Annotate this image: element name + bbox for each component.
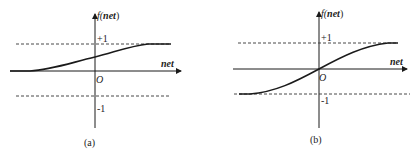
y-axis-label: f(net) [321, 8, 343, 20]
caption: (a) [84, 137, 95, 149]
panel-a: f(net) +1 net O -1 (a) [10, 10, 181, 149]
x-axis-label: net [390, 56, 404, 67]
caption: (b) [310, 134, 322, 146]
x-axis-label: net [161, 58, 175, 69]
lower-label: -1 [321, 95, 329, 106]
origin-label: O [96, 74, 103, 85]
lower-label: -1 [97, 103, 105, 114]
panel-b: f(net) +1 net O -1 (b) [233, 8, 410, 146]
origin-label: O [319, 72, 326, 83]
sigmoid-diagram: f(net) +1 net O -1 (a) f(net) +1 net O -… [0, 0, 418, 155]
sigmoid-curve [10, 44, 171, 71]
upper-label: +1 [97, 33, 108, 44]
y-axis-label: f(net) [97, 10, 119, 22]
upper-label: +1 [321, 32, 332, 43]
